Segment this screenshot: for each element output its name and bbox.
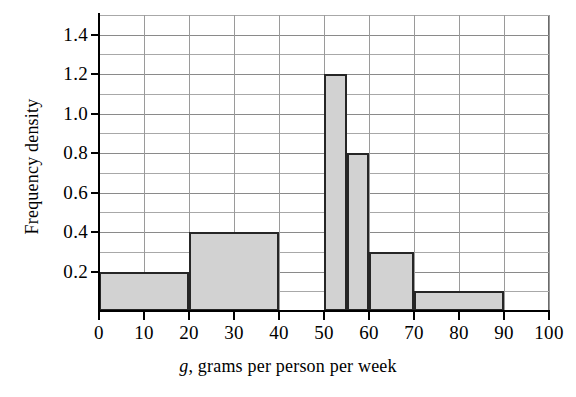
- y-axis-tick-label: 1.0: [46, 104, 88, 123]
- gridline-vertical: [504, 15, 505, 311]
- x-axis-tick-label: 100: [521, 322, 576, 343]
- y-axis-line: [98, 13, 100, 313]
- y-axis-tick-label: 0.8: [46, 143, 88, 162]
- x-axis-tick: [323, 312, 325, 320]
- y-axis-tick: [91, 231, 99, 233]
- y-axis-tick-label: 0.2: [46, 262, 88, 281]
- y-axis-tick: [91, 152, 99, 154]
- x-axis-tick: [368, 312, 370, 320]
- y-axis-tick: [91, 34, 99, 36]
- x-axis-tick: [188, 312, 190, 320]
- y-axis-tick-label: 1.4: [46, 25, 88, 44]
- x-axis-tick: [278, 312, 280, 320]
- histogram-bar: [189, 232, 279, 311]
- x-axis-title: g, grams per person per week: [0, 356, 576, 377]
- y-axis-tick: [91, 192, 99, 194]
- x-axis-tick: [413, 312, 415, 320]
- y-axis-tick-label: 0.4: [46, 222, 88, 241]
- plot-area: [99, 15, 549, 311]
- y-axis-tick-label: 1.2: [46, 64, 88, 83]
- histogram-bar: [369, 252, 414, 311]
- x-axis-tick: [503, 312, 505, 320]
- x-axis-tick: [98, 312, 100, 320]
- histogram-bar: [99, 272, 189, 311]
- gridline-vertical: [414, 15, 415, 311]
- y-axis-tick: [91, 271, 99, 273]
- y-axis-title: Frequency density: [22, 62, 43, 272]
- gridline-vertical: [459, 15, 460, 311]
- x-axis-tick: [458, 312, 460, 320]
- x-axis-tick: [548, 312, 550, 320]
- histogram-bar: [324, 74, 347, 311]
- histogram-bar: [347, 153, 369, 311]
- gridline-vertical: [144, 15, 145, 311]
- histogram-figure: 1.41.21.00.80.60.40.2 010203040506070809…: [0, 0, 576, 397]
- x-axis-title-rest: , grams per person per week: [188, 356, 396, 376]
- x-axis-tick: [143, 312, 145, 320]
- gridline-vertical: [279, 15, 280, 311]
- x-axis-tick: [233, 312, 235, 320]
- y-axis-tick-label: 0.6: [46, 183, 88, 202]
- y-axis-tick: [91, 73, 99, 75]
- y-axis-tick: [91, 113, 99, 115]
- histogram-bar: [414, 291, 504, 311]
- gridline-vertical: [549, 15, 550, 311]
